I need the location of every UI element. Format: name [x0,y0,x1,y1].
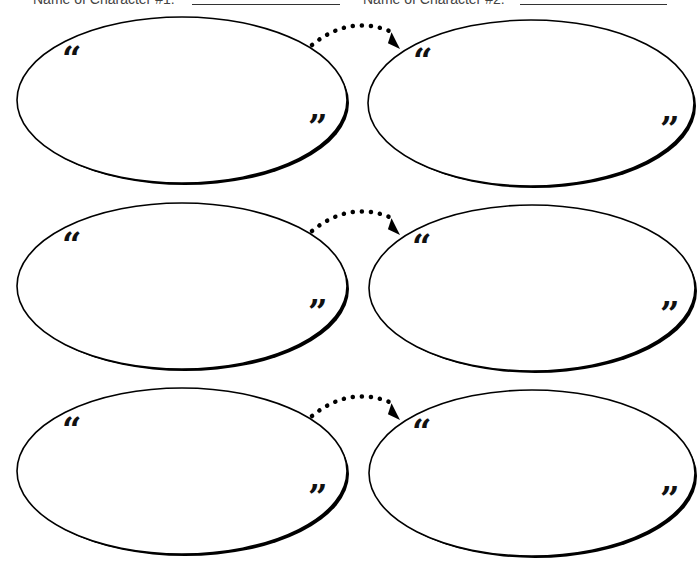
close-quote-icon: ” [660,479,680,519]
dotted-arrow-icon [312,25,405,51]
speech-oval-right[interactable]: “ ” [368,20,696,188]
close-quote-icon: ” [308,477,328,517]
close-quote-icon: ” [308,107,328,147]
open-quote-icon: “ [62,224,82,264]
speech-oval-left[interactable]: “ ” [17,17,349,185]
close-quote-icon: ” [660,109,680,149]
dotted-arrow-icon [312,211,405,237]
open-quote-icon: “ [412,411,432,451]
row-2: “ ” “ ” [17,203,697,373]
open-quote-icon: “ [413,40,433,80]
row-1: “ ” “ ” [17,17,696,188]
open-quote-icon: “ [62,38,82,78]
speech-oval-right[interactable]: “ ” [369,205,697,373]
dialogue-worksheet: “ ” “ ” “ ” “ ” [0,0,699,561]
speech-oval-left[interactable]: “ ” [17,203,349,371]
open-quote-icon: “ [62,409,82,449]
close-quote-icon: ” [308,292,328,332]
close-quote-icon: ” [660,294,680,334]
open-quote-icon: “ [412,226,432,266]
speech-oval-right[interactable]: “ ” [369,390,697,558]
row-3: “ ” “ ” [17,388,697,558]
speech-oval-left[interactable]: “ ” [17,388,349,556]
dotted-arrow-icon [312,396,405,422]
